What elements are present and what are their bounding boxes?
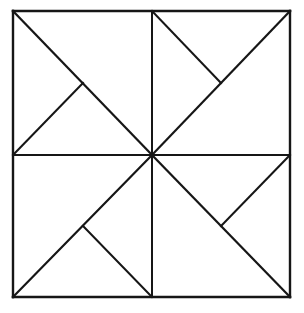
figure-canvas bbox=[0, 0, 304, 313]
pinwheel-square-diagram bbox=[0, 0, 304, 313]
